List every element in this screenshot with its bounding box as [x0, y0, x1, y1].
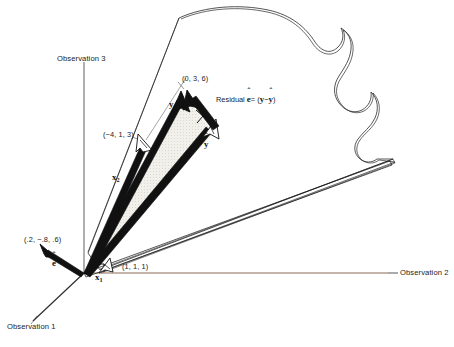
vector-label-e-hat-caret: ˆ	[52, 252, 56, 260]
axis-label-observation-2: Observation 2	[400, 268, 449, 277]
vector-label-x2-subscript: 2	[117, 176, 120, 183]
vector-label-y-hat-caret: ˆ	[204, 133, 209, 141]
axis-observation-1	[33, 273, 84, 321]
vector-y	[84, 91, 190, 276]
leader-line-y-label	[178, 82, 184, 89]
axis-label-observation-1: Observation 1	[7, 322, 56, 331]
figure-canvas: Observation 3 Observation 2 Observation …	[0, 0, 454, 347]
coordinate-label-x2: (−4, 1, 3)	[103, 130, 134, 139]
diagram-svg	[0, 0, 454, 347]
vector-label-y-symbol: y	[169, 99, 174, 109]
vector-label-x1-subscript: 1	[100, 276, 103, 283]
axis-label-observation-3: Observation 3	[57, 54, 106, 63]
regression-plane-shape	[88, 7, 395, 273]
residual-e-caret: ˆ	[247, 88, 251, 96]
vector-label-x2: x2	[112, 172, 120, 183]
vector-label-e-hat: ˆ e	[52, 258, 56, 268]
coordinate-label-y: (0, 3, 6)	[182, 74, 208, 83]
coordinate-label-e-hat: (.2, −.8, .6)	[24, 235, 61, 244]
residual-annotation: Residual ˆe= (y−ˆy)	[216, 94, 275, 104]
residual-close-paren: )	[273, 95, 275, 104]
residual-prefix: Residual	[216, 95, 245, 104]
vector-label-x1: x1	[95, 272, 103, 283]
coordinate-label-x1: (1, 1, 1)	[122, 262, 148, 271]
vector-e-hat	[40, 244, 84, 277]
vector-label-y: y	[169, 99, 174, 109]
vector-label-y-hat: ˆ y	[204, 139, 209, 149]
residual-yhat-caret: ˆ	[269, 88, 274, 96]
